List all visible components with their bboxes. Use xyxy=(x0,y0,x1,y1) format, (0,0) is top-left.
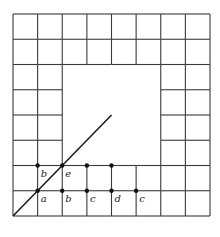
point-label-d: d xyxy=(115,193,121,204)
grid-point xyxy=(35,189,39,193)
grid-point xyxy=(85,189,89,193)
point-label-b: b xyxy=(41,168,47,179)
grid-point xyxy=(134,189,138,193)
point-label-c: c xyxy=(90,193,96,204)
grid-point xyxy=(85,163,89,167)
grid-point xyxy=(109,163,113,167)
grid-point xyxy=(60,189,64,193)
grid-diagram: beabcdc xyxy=(0,0,220,237)
grid-point xyxy=(109,189,113,193)
point-label-b: b xyxy=(65,193,71,204)
point-label-a: a xyxy=(41,193,47,204)
point-label-c: c xyxy=(139,193,145,204)
grid-point xyxy=(35,163,39,167)
point-label-e: e xyxy=(65,168,71,179)
labels-layer: beabcdc xyxy=(41,168,146,204)
grid-point xyxy=(60,163,64,167)
